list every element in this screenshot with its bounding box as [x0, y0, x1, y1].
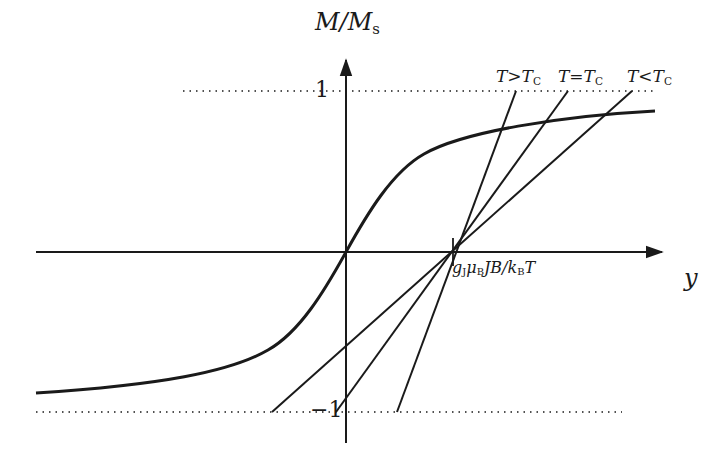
label-t-equal-tc: T=TC [558, 66, 603, 87]
intersection-label: gJμBJB/kBT [452, 258, 535, 277]
tick-label-1: 1 [315, 77, 329, 102]
y-axis-label: M/Ms [315, 8, 380, 38]
x-axis-label: y [684, 264, 698, 292]
label-t-less-tc: T<TC [627, 66, 672, 87]
tick-label-minus-1: −1 [310, 397, 342, 422]
label-t-greater-tc: T>TC [496, 66, 541, 87]
